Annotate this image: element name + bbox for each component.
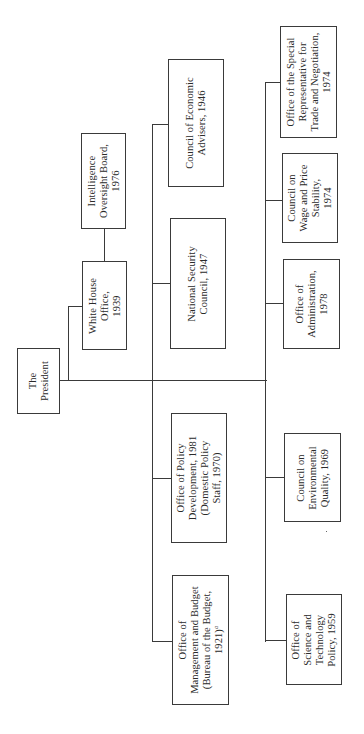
president-label: The President xyxy=(27,361,51,401)
label-line: 1974 xyxy=(321,33,333,132)
label-line: Advisers, 1946 xyxy=(196,77,208,169)
label-line: Office of Policy xyxy=(175,436,187,521)
office-of-science-and-technology-policy-box: Office of Science and Technology Policy,… xyxy=(286,594,342,685)
office-of-special-representative-box: Office of the Special Representative for… xyxy=(280,26,337,138)
label-line: Office, xyxy=(99,277,111,333)
label-line: President xyxy=(39,361,51,401)
label-line: Science and xyxy=(302,613,314,667)
label-line: Trade and Negotiation, xyxy=(309,33,321,132)
label-line: Office of xyxy=(177,586,189,694)
label-line-with-footnote: 1921)a xyxy=(213,586,225,694)
middle-spine xyxy=(152,124,153,642)
council-on-environmental-quality-box: Council on Environmental Quality, 1969 xyxy=(284,433,341,522)
label-text: 1921) xyxy=(213,629,224,654)
label-line: Council of Economic xyxy=(184,77,196,169)
label-line: Representative for xyxy=(297,33,309,132)
white-house-office-label: White House Office, 1939 xyxy=(87,277,123,333)
office-of-administration-label: Office of Administration, 1978 xyxy=(294,270,330,338)
council-of-economic-advisers-label: Council of Economic Advisers, 1946 xyxy=(184,77,208,169)
label-line: Development, 1981 xyxy=(187,436,199,521)
label-line: 1976 xyxy=(110,144,122,218)
ostr-connector xyxy=(265,82,280,83)
office-of-science-and-technology-policy-label: Office of Science and Technology Policy,… xyxy=(290,613,338,667)
label-line: Council on xyxy=(295,446,307,510)
office-of-policy-development-box: Office of Policy Development, 1981 (Dome… xyxy=(171,413,227,543)
label-line: Staff, 1970) xyxy=(211,436,223,521)
label-line: Oversight Board, xyxy=(98,144,110,218)
label-line: (Domestic Policy xyxy=(199,436,211,521)
office-of-management-and-budget-label: Office of Management and Budget (Bureau … xyxy=(177,586,225,694)
president-box: The President xyxy=(17,348,60,414)
cea-connector xyxy=(152,124,169,125)
label-line: White House xyxy=(87,277,99,333)
main-trunk-line xyxy=(59,380,267,381)
intelligence-oversight-board-label: Intelligence Oversight Board, 1976 xyxy=(86,144,122,218)
council-on-environmental-quality-label: Council on Environmental Quality, 1969 xyxy=(295,446,331,510)
label-line: 1978 xyxy=(318,270,330,338)
label-line: Council on xyxy=(286,164,298,231)
opd-connector xyxy=(152,478,171,479)
stray-mark xyxy=(326,531,327,532)
label-line: Office of xyxy=(294,270,306,338)
label-line: 1974 xyxy=(322,164,334,231)
ostp-connector xyxy=(265,640,286,641)
white-house-office-box: White House Office, 1939 xyxy=(82,261,127,350)
ceq-connector xyxy=(265,477,284,478)
label-line: Council, 1947 xyxy=(198,246,210,321)
national-security-council-label: National Security Council, 1947 xyxy=(186,246,210,321)
office-of-policy-development-label: Office of Policy Development, 1981 (Dome… xyxy=(175,436,223,521)
label-line: The xyxy=(27,361,39,401)
nsc-connector xyxy=(152,283,170,284)
label-line: National Security xyxy=(186,246,198,321)
oa-connector xyxy=(265,303,283,304)
label-line: Environmental xyxy=(307,446,319,510)
council-of-economic-advisers-box: Council of Economic Advisers, 1946 xyxy=(168,59,224,187)
label-line: Wage and Price xyxy=(298,164,310,231)
council-on-wage-and-price-stability-label: Council on Wage and Price Stability, 197… xyxy=(286,164,334,231)
label-line: Administration, xyxy=(306,270,318,338)
label-line: 1939 xyxy=(111,277,123,333)
council-on-wage-and-price-stability-box: Council on Wage and Price Stability, 197… xyxy=(282,153,338,243)
label-line: Policy, 1959 xyxy=(326,613,338,667)
iob-connector xyxy=(104,229,105,261)
office-of-management-and-budget-box: Office of Management and Budget (Bureau … xyxy=(172,575,229,705)
label-line: Intelligence xyxy=(86,144,98,218)
label-line: Office of xyxy=(290,613,302,667)
intelligence-oversight-board-box: Intelligence Oversight Board, 1976 xyxy=(81,133,126,229)
white-house-branch-vertical xyxy=(68,306,69,381)
omb-connector xyxy=(152,641,172,642)
office-of-administration-box: Office of Administration, 1978 xyxy=(283,259,340,349)
office-of-special-representative-label: Office of the Special Representative for… xyxy=(285,33,333,132)
label-line: (Bureau of the Budget, xyxy=(201,586,213,694)
label-line: Management and Budget xyxy=(189,586,201,694)
right-spine xyxy=(265,82,266,642)
cwps-connector xyxy=(265,200,282,201)
label-line: Quality, 1969 xyxy=(319,446,331,510)
label-line: Office of the Special xyxy=(285,33,297,132)
footnote-marker: a xyxy=(212,626,218,629)
national-security-council-box: National Security Council, 1947 xyxy=(170,218,226,349)
white-house-branch-horizontal xyxy=(68,306,82,307)
label-line: Technology xyxy=(314,613,326,667)
label-line: Stability, xyxy=(310,164,322,231)
